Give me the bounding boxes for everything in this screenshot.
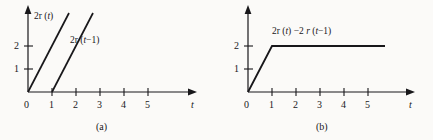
curve-label-2r-t-minus-1: 2r (t−1)	[70, 36, 99, 46]
y-axis	[245, 5, 252, 92]
panel-a-plot	[0, 0, 216, 140]
origin-label: 0	[244, 100, 249, 110]
x-tick-label-2: 2	[73, 100, 78, 110]
x-tick-label-4: 4	[121, 100, 126, 110]
y-tick-label-1: 1	[234, 64, 239, 74]
x-tick-label-1: 1	[269, 100, 274, 110]
origin-label: 0	[24, 100, 29, 110]
panel-b-plot	[216, 0, 433, 140]
x-tick-label-3: 3	[317, 100, 322, 110]
curve-label-2r-t-minus-2r-t-minus-1: 2r (t) −2 r (t−1)	[272, 27, 331, 37]
panel-b: 2 1 0 1 2 3 4 5 t 2r (t) −2 r (t−1) (b)	[216, 0, 432, 140]
curve-2r-t	[28, 13, 69, 92]
x-axis	[248, 89, 415, 96]
y-tick-label-1: 1	[14, 64, 19, 74]
x-tick-label-5: 5	[365, 100, 370, 110]
x-tick-label-1: 1	[49, 100, 54, 110]
y-tick-label-2: 2	[14, 41, 19, 51]
panel-a-caption: (a)	[96, 122, 107, 132]
curve-label-2r-t: 2r (t)	[34, 12, 53, 22]
y-tick-label-2: 2	[234, 41, 239, 51]
panel-b-caption: (b)	[316, 122, 328, 132]
curve-2r-t-minus-1	[52, 13, 93, 92]
x-axis-label: t	[191, 100, 194, 110]
x-tick-label-3: 3	[97, 100, 102, 110]
x-tick-label-4: 4	[341, 100, 346, 110]
figure-container: 2 1 0 1 2 3 4 5 t 2r (t) 2r (t−1) (a)	[0, 0, 433, 140]
curve-2r-t-minus-2r-t-minus-1	[248, 46, 385, 92]
y-axis	[25, 5, 32, 92]
x-tick-label-5: 5	[145, 100, 150, 110]
x-axis-label: t	[409, 100, 412, 110]
x-tick-label-2: 2	[293, 100, 298, 110]
panel-a: 2 1 0 1 2 3 4 5 t 2r (t) 2r (t−1) (a)	[0, 0, 216, 140]
